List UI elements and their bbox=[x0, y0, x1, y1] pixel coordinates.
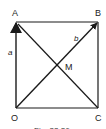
vector-square-diagram: A B O C M a b Fig. 22.26 bbox=[0, 0, 106, 129]
label-m-point: M bbox=[65, 62, 73, 72]
label-a-point: A bbox=[12, 8, 18, 18]
figure-caption: Fig. 22.26 bbox=[34, 126, 70, 129]
label-vector-a: a bbox=[8, 48, 13, 57]
diagonal-ca bbox=[18, 24, 98, 108]
arrowhead-a-icon bbox=[10, 22, 22, 33]
vector-b-arrow bbox=[16, 23, 97, 108]
label-c-point: C bbox=[95, 113, 102, 123]
label-vector-b: b bbox=[74, 34, 79, 43]
label-b-point: B bbox=[95, 8, 101, 18]
label-o-point: O bbox=[11, 113, 18, 123]
